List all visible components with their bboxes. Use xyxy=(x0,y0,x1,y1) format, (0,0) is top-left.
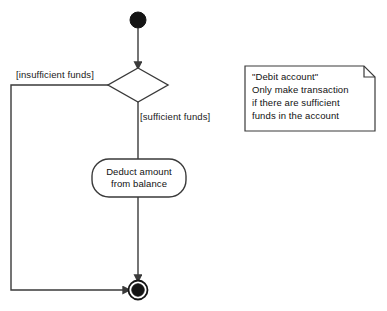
edge-label-insufficient-funds: [insufficient funds] xyxy=(16,70,94,80)
diagram-vector-layer xyxy=(0,0,387,311)
uml-note-text: "Debit account" Only make transaction if… xyxy=(252,70,370,122)
activity-label-line-1: Deduct amount xyxy=(92,166,186,178)
note-line-2: Only make transaction xyxy=(252,83,370,96)
note-line-4: funds in the account xyxy=(252,109,370,122)
edge-label-sufficient-funds: [sufficient funds] xyxy=(140,112,210,122)
final-node-inner-disc xyxy=(132,284,144,296)
decision-diamond xyxy=(108,68,168,102)
activity-diagram-canvas: [insufficient funds] [sufficient funds] … xyxy=(0,0,387,311)
activity-label-line-2: from balance xyxy=(92,178,186,190)
note-line-1: "Debit account" xyxy=(252,70,370,83)
note-line-3: if there are sufficient xyxy=(252,96,370,109)
initial-node xyxy=(130,12,146,28)
activity-node-label: Deduct amount from balance xyxy=(92,166,186,190)
